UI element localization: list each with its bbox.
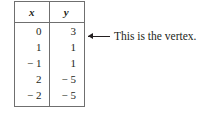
cell-x: 2 bbox=[15, 71, 49, 87]
header-cell-y: y bbox=[49, 2, 84, 22]
cell-y: − 5 bbox=[49, 71, 84, 87]
left-arrow-icon bbox=[88, 32, 110, 41]
cell-x: − 2 bbox=[15, 87, 49, 103]
table-row: 1 1 bbox=[15, 39, 84, 55]
cell-x: − 1 bbox=[15, 55, 49, 71]
table-row: − 2 − 5 bbox=[15, 87, 84, 103]
table-row: 2 − 5 bbox=[15, 71, 84, 87]
cell-y: 3 bbox=[49, 23, 84, 39]
annotation-label: This is the vertex. bbox=[114, 29, 196, 43]
table-header-row: x y bbox=[15, 2, 84, 22]
vertex-annotation: This is the vertex. bbox=[88, 29, 196, 43]
cell-y: − 5 bbox=[49, 87, 84, 103]
cell-x: 1 bbox=[15, 39, 49, 55]
table-row: − 1 1 bbox=[15, 55, 84, 71]
header-cell-x: x bbox=[15, 2, 49, 22]
table-inner: x y 0 3 1 1 − 1 1 2 − 5 − 2 − 5 bbox=[15, 2, 84, 106]
xy-value-table: x y 0 3 1 1 − 1 1 2 − 5 − 2 − 5 bbox=[14, 1, 85, 107]
cell-y: 1 bbox=[49, 39, 84, 55]
cell-y: 1 bbox=[49, 55, 84, 71]
cell-x: 0 bbox=[15, 23, 49, 39]
table-body: 0 3 1 1 − 1 1 2 − 5 − 2 − 5 bbox=[15, 23, 84, 103]
table-row: 0 3 bbox=[15, 23, 84, 39]
